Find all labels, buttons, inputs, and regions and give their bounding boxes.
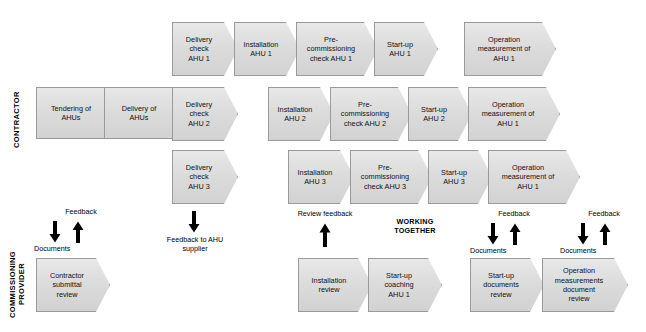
step-label: Contractor submittal review [39, 271, 107, 299]
process-step-pre-commissioning-check-ahu-1[interactable]: Pre- commissioning check AHU 1 [296, 22, 378, 76]
process-step-start-up-ahu-3[interactable]: Start-up AHU 3 [428, 150, 492, 204]
step-label: Installation AHU 1 [237, 40, 297, 59]
step-label: Delivery check AHU 1 [175, 35, 235, 63]
process-step-installation-ahu-2[interactable]: Installation AHU 2 [268, 87, 334, 141]
step-label: Start-up AHU 2 [411, 105, 469, 124]
process-step-start-up-ahu-1[interactable]: Start-up AHU 1 [374, 22, 438, 76]
arrow-up-feedback-3 [599, 223, 611, 245]
lane-label-contractor: CONTRACTOR [12, 85, 21, 155]
step-label: Operation measurement of AHU 1 [467, 35, 553, 63]
process-step-delivery-check-ahu-2[interactable]: Delivery check AHU 2 [172, 87, 238, 141]
process-step-operation-measurement-ahu-1-row3[interactable]: Operation measurement of AHU 1 [488, 150, 580, 204]
arrow-up-review-feedback [319, 223, 331, 247]
process-step-pre-commissioning-check-ahu-2[interactable]: Pre- commissioning check AHU 2 [330, 87, 412, 141]
annotation-working-together: WORKING TOGETHER [378, 218, 452, 235]
annotation-feedback-1: Feedback [48, 208, 114, 217]
step-label: Tendering of AHUs [39, 104, 115, 123]
step-label: Start-up AHU 3 [431, 168, 489, 187]
step-label: Operation measurement of AHU 1 [471, 100, 557, 128]
process-step-start-up-coaching-ahu-1[interactable]: Start-up coaching AHU 1 [368, 258, 442, 312]
process-step-delivery-check-ahu-3[interactable]: Delivery check AHU 3 [172, 150, 238, 204]
step-label: Start-up coaching AHU 1 [371, 271, 439, 299]
arrow-up-feedback-2 [509, 223, 521, 245]
process-flow-diagram: CONTRACTOR COMMISSIONING PROVIDER Tender… [0, 0, 646, 332]
step-label: Operation measurement of AHU 1 [491, 163, 577, 191]
step-label: Start-up AHU 1 [377, 40, 435, 59]
annotation-documents-2: Documents [470, 247, 532, 256]
step-label: Start-up documents review [473, 271, 541, 299]
process-step-installation-ahu-3[interactable]: Installation AHU 3 [288, 150, 354, 204]
process-step-start-up-ahu-2[interactable]: Start-up AHU 2 [408, 87, 472, 141]
step-label: Operation measurements document review [545, 266, 625, 304]
step-label: Delivery check AHU 2 [175, 100, 235, 128]
process-step-delivery-check-ahu-1[interactable]: Delivery check AHU 1 [172, 22, 238, 76]
step-label: Pre- commissioning check AHU 1 [299, 35, 375, 63]
step-label: Delivery check AHU 3 [175, 163, 235, 191]
arrow-up-feedback-1 [72, 221, 84, 243]
process-step-pre-commissioning-check-ahu-3[interactable]: Pre- commissioning check AHU 3 [350, 150, 432, 204]
arrow-down-feedback-to-ahu-supplier [188, 211, 200, 233]
annotation-review-feedback: Review feedback [290, 210, 360, 219]
arrow-down-documents-2 [487, 223, 499, 245]
process-step-contractor-submittal-review[interactable]: Contractor submittal review [36, 258, 110, 312]
annotation-feedback-3: Feedback [577, 210, 631, 219]
step-label: Installation AHU 2 [271, 105, 331, 124]
process-step-installation-review[interactable]: Installation review [298, 258, 372, 312]
step-label: Delivery of AHUs [107, 104, 183, 123]
annotation-documents-3: Documents [560, 247, 622, 256]
annotation-feedback-to-ahu-supplier: Feedback to AHU supplier [152, 236, 238, 253]
step-label: Installation AHU 3 [291, 168, 351, 187]
process-step-operation-measurement-ahu-1-row2[interactable]: Operation measurement of AHU 1 [468, 87, 560, 141]
step-label: Pre- commissioning check AHU 2 [333, 100, 409, 128]
arrow-down-documents-3 [577, 223, 589, 245]
process-step-start-up-documents-review[interactable]: Start-up documents review [470, 258, 544, 312]
step-label: Installation review [301, 276, 369, 295]
process-step-installation-ahu-1[interactable]: Installation AHU 1 [234, 22, 300, 76]
process-step-operation-measurement-ahu-1-row1[interactable]: Operation measurement of AHU 1 [464, 22, 556, 76]
annotation-documents-1: Documents [34, 245, 96, 254]
lane-label-commissioning-provider: COMMISSIONING PROVIDER [8, 240, 26, 328]
arrow-down-documents-1 [49, 221, 61, 243]
annotation-feedback-2: Feedback [487, 210, 541, 219]
step-label: Pre- commissioning check AHU 3 [353, 163, 429, 191]
process-step-operation-measurements-document-review[interactable]: Operation measurements document review [542, 258, 628, 312]
